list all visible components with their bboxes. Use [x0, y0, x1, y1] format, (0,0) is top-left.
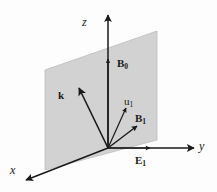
axis-label-y: y	[199, 140, 204, 152]
vector-label-B1-sub: 1	[142, 117, 146, 126]
axis-label-z: z	[82, 16, 87, 28]
diagram-canvas	[0, 0, 217, 192]
axis-label-x: x	[10, 164, 15, 176]
vector-label-u1-sub: 1	[130, 100, 134, 109]
vector-label-B0-sub: 0	[124, 62, 128, 71]
vector-diagram-figure: z y x B0 k u1 B1 E1	[0, 0, 217, 192]
vector-label-E1: E1	[135, 155, 146, 167]
vector-label-k-base: k	[58, 89, 64, 101]
vector-label-u1: u1	[124, 96, 133, 108]
vector-label-B1: B1	[135, 113, 146, 125]
vector-label-B0: B0	[117, 58, 128, 70]
vector-label-k: k	[58, 90, 64, 101]
vector-label-E1-sub: 1	[142, 159, 146, 168]
